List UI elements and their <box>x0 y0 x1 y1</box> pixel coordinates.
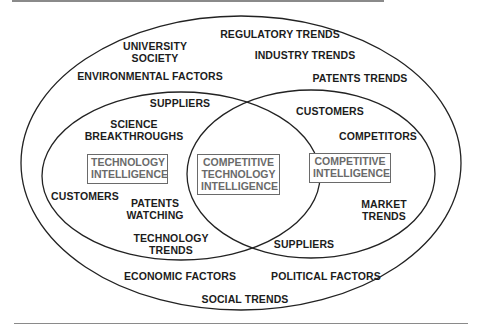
label-right-customers: CUSTOMERS <box>290 105 370 117</box>
label-left-suppliers: SUPPLIERS <box>140 97 220 109</box>
box-competitive-technology-intelligence: COMPETITIVE TECHNOLOGY INTELLIGENCE <box>197 154 280 195</box>
label-right-suppliers: SUPPLIERS <box>266 238 342 250</box>
bottom-rule <box>14 323 468 324</box>
label-patents-watching: PATENTS WATCHING <box>122 197 188 221</box>
label-patents-trends: PATENTS TRENDS <box>300 72 420 84</box>
label-technology-trends: TECHNOLOGY TRENDS <box>130 232 212 256</box>
label-industry-trends: INDUSTRY TRENDS <box>250 49 360 61</box>
label-political-factors: POLITICAL FACTORS <box>268 270 384 282</box>
label-market-trends: MARKET TRENDS <box>356 198 412 222</box>
label-university-society: UNIVERSITY SOCIETY <box>110 40 200 64</box>
label-economic-factors: ECONOMIC FACTORS <box>115 270 245 282</box>
label-social-trends: SOCIAL TRENDS <box>190 293 300 305</box>
box-technology-intelligence: TECHNOLOGY INTELLIGENCE <box>87 154 168 184</box>
label-left-customers: CUSTOMERS <box>48 190 122 202</box>
label-science-breakthroughs: SCIENCE BREAKTHROUGHS <box>82 118 186 142</box>
label-competitors: COMPETITORS <box>333 130 423 142</box>
label-environmental-factors: ENVIRONMENTAL FACTORS <box>70 70 230 82</box>
label-regulatory-trends: REGULATORY TRENDS <box>195 28 365 40</box>
box-competitive-intelligence: COMPETITIVE INTELLIGENCE <box>309 153 391 183</box>
